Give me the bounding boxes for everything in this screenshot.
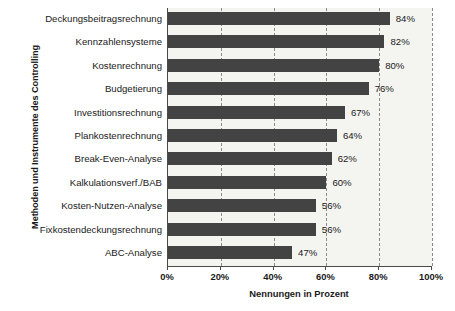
x-tick (431, 266, 432, 270)
gridline-100 (432, 8, 433, 266)
x-tick-label: 60% (316, 271, 335, 282)
x-tick (378, 266, 379, 270)
category-label: ABC-Analyse (105, 246, 162, 259)
bar (168, 176, 326, 189)
x-tick-label: 20% (210, 271, 229, 282)
category-label: Plankostenrechnung (75, 129, 162, 142)
category-label: Kosten-Nutzen-Analyse (61, 199, 162, 212)
bar-chart-figure: Methoden und Instrumente des Controlling… (0, 0, 455, 311)
bar-value-label: 60% (332, 176, 351, 189)
bar-row: Deckungsbeitragsrechnung84% (168, 12, 432, 25)
plot-area: Deckungsbeitragsrechnung84%Kennzahlensys… (167, 8, 432, 267)
bar-row: Budgetierung76% (168, 82, 432, 95)
x-tick-label: 40% (263, 271, 282, 282)
bar-row: Investitionsrechnung67% (168, 106, 432, 119)
bar (168, 199, 316, 212)
bar-row: Break-Even-Analyse62% (168, 152, 432, 165)
x-tick-label: 80% (369, 271, 388, 282)
bar-row: Kalkulationsverf./BAB60% (168, 176, 432, 189)
category-label: Budgetierung (105, 82, 162, 95)
bar (168, 223, 316, 236)
bar (168, 12, 390, 25)
category-label: Kostenrechnung (92, 59, 162, 72)
bar-value-label: 76% (375, 82, 394, 95)
bar (168, 129, 337, 142)
bar-value-label: 67% (351, 106, 370, 119)
x-tick (273, 266, 274, 270)
bar (168, 59, 379, 72)
bar-value-label: 82% (390, 35, 409, 48)
bar-value-label: 80% (385, 59, 404, 72)
bar-row: Plankostenrechnung64% (168, 129, 432, 142)
category-label: Kalkulationsverf./BAB (70, 176, 162, 189)
bar (168, 35, 384, 48)
bar-row: ABC-Analyse47% (168, 246, 432, 259)
bar (168, 152, 332, 165)
category-label: Kennzahlensysteme (76, 35, 162, 48)
bar (168, 82, 369, 95)
bar-value-label: 56% (322, 199, 341, 212)
x-tick (325, 266, 326, 270)
y-axis-title: Methoden und Instrumente des Controlling (30, 12, 40, 262)
bar-row: Kosten-Nutzen-Analyse56% (168, 199, 432, 212)
x-tick (220, 266, 221, 270)
bar-row: Fixkostendeckungsrechnung56% (168, 223, 432, 236)
x-tick (167, 266, 168, 270)
category-label: Deckungsbeitragsrechnung (45, 12, 162, 25)
bar-value-label: 56% (322, 223, 341, 236)
bar-row: Kennzahlensysteme82% (168, 35, 432, 48)
category-label: Investitionsrechnung (74, 106, 162, 119)
bar-value-label: 64% (343, 129, 362, 142)
bar-value-label: 84% (396, 12, 415, 25)
x-tick-label: 0% (160, 271, 174, 282)
category-label: Fixkostendeckungsrechnung (40, 223, 162, 236)
category-label: Break-Even-Analyse (75, 152, 162, 165)
bar-value-label: 62% (338, 152, 357, 165)
bar-row: Kostenrechnung80% (168, 59, 432, 72)
bar-value-label: 47% (298, 246, 317, 259)
x-tick-label: 100% (419, 271, 443, 282)
bar (168, 246, 292, 259)
bar (168, 106, 345, 119)
x-axis-title: Nennungen in Prozent (167, 288, 431, 299)
